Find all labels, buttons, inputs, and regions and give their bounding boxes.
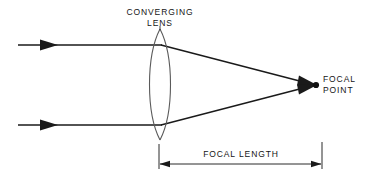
dimension-arrow-right-icon xyxy=(311,161,322,167)
focal-length-label: FOCAL LENGTH xyxy=(159,149,323,160)
focal-point-line2: POINT xyxy=(323,85,353,95)
upper-refracted-ray xyxy=(161,45,315,85)
lens-title-line2: LENS xyxy=(147,18,173,28)
upper-ray-arrow-right-icon xyxy=(40,40,58,51)
dimension-arrow-left-icon xyxy=(160,161,171,167)
lens-title-label: CONVERGINGLENS xyxy=(0,7,320,29)
lens-title-line1: CONVERGING xyxy=(126,7,193,17)
lens-diagram-canvas: CONVERGINGLENS FOCALPOINT FOCAL LENGTH xyxy=(0,0,368,178)
lower-ray-arrow-right-icon xyxy=(40,120,58,131)
focal-point-label: FOCALPOINT xyxy=(323,74,356,96)
lower-refracted-ray xyxy=(161,85,315,125)
focal-point-line1: FOCAL xyxy=(323,74,356,84)
focal-point-dot-icon xyxy=(313,82,319,88)
